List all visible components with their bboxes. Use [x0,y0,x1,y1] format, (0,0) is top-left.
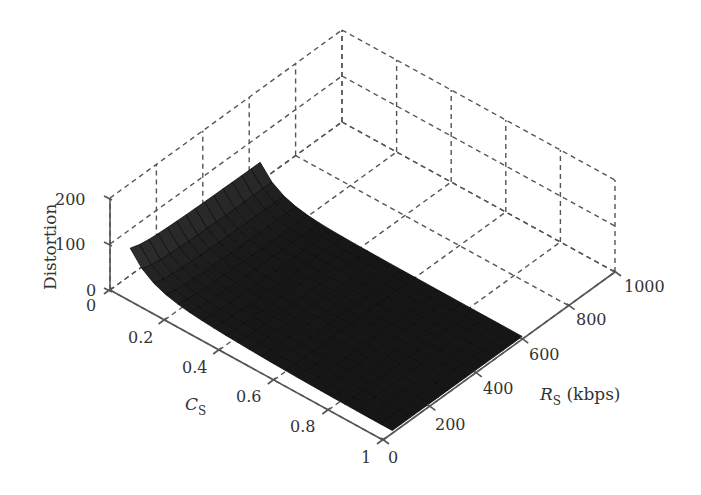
y-tick-1000: 1000 [624,277,665,296]
x-axis-title: CS [185,394,206,418]
x-tick-0.8: 0.8 [290,417,315,436]
y-tick-800: 800 [576,310,607,329]
surface-chart: 200 100 0 Distortion 0 0.2 0.4 0.6 0.8 1… [0,0,701,495]
y-tick-400: 400 [483,379,514,398]
y-tick-200: 200 [435,415,466,434]
x-tick-0.6: 0.6 [236,387,261,406]
z-axis-title: Distortion [40,204,60,290]
x-tick-0.4: 0.4 [182,358,207,377]
x-tick-0.2: 0.2 [128,328,153,347]
y-axis-title: RS (kbps) [539,384,621,408]
x-tick-0: 0 [86,296,96,315]
y-tick-0: 0 [388,448,398,467]
y-tick-600: 600 [529,345,560,364]
x-tick-1: 1 [361,448,371,467]
